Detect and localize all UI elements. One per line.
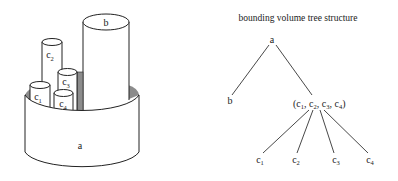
tree-leaf-c2: c2 bbox=[292, 154, 300, 166]
cylinder-a-label: a bbox=[78, 140, 83, 151]
bounding-volume-tree: bounding volume tree structure a b (c1, … bbox=[228, 13, 375, 166]
edge-group-c2 bbox=[297, 110, 313, 153]
tree-node-root: a bbox=[270, 34, 275, 45]
tree-node-group: (c1, c2, c3, c4) bbox=[293, 98, 346, 110]
edge-group-c3 bbox=[320, 110, 334, 153]
tree-leaf-c3: c3 bbox=[332, 154, 340, 166]
cylinder-b: b bbox=[83, 14, 129, 114]
edge-group-c4 bbox=[324, 110, 368, 153]
gap-shadow-strip bbox=[77, 72, 83, 114]
tree-leaf-c4: c4 bbox=[366, 154, 374, 166]
edge-a-b bbox=[232, 45, 269, 95]
tree-title: bounding volume tree structure bbox=[239, 13, 358, 23]
cylinder-b-label: b bbox=[104, 17, 109, 28]
tree-node-b: b bbox=[228, 95, 233, 106]
edge-group-c1 bbox=[263, 110, 309, 153]
diagram-canvas: b c2 c3 c1 bbox=[0, 0, 398, 181]
tree-leaf-c1: c1 bbox=[256, 154, 264, 166]
edge-a-group bbox=[276, 45, 312, 95]
bounding-volume-illustration: b c2 c3 c1 bbox=[25, 14, 139, 167]
